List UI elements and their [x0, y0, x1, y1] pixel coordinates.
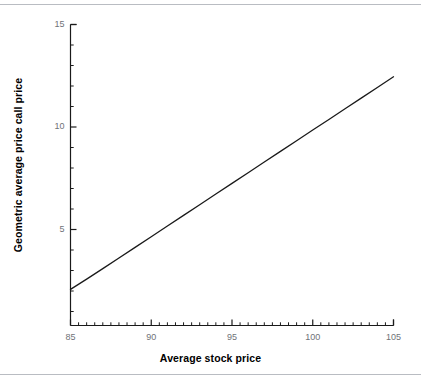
y-axis-title-wrapper: Geometric average price call price: [0, 0, 36, 330]
x-tick-label: 95: [212, 332, 252, 342]
x-tick-label: 85: [51, 332, 91, 342]
y-axis-title: Geometric average price call price: [12, 78, 24, 252]
axes-group: [71, 25, 394, 326]
series-line-0: [71, 77, 394, 290]
tick-marks-group: [71, 25, 394, 326]
x-tick-label: 105: [374, 332, 414, 342]
x-tick-label: 100: [293, 332, 333, 342]
chart-figure: 859095100105 51015 Geometric average pri…: [0, 0, 421, 390]
x-axis-title: Average stock price: [0, 352, 421, 364]
data-series-group: [71, 77, 394, 290]
x-tick-label: 90: [131, 332, 171, 342]
